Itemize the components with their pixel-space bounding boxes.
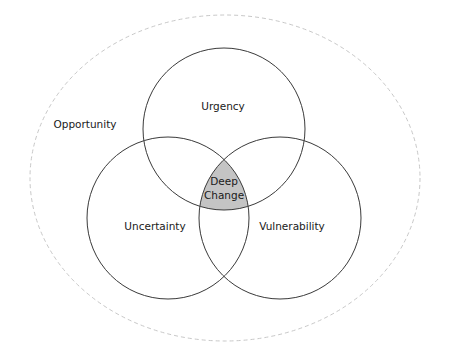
uncertainty-label: Uncertainty: [124, 220, 185, 232]
opportunity-label: Opportunity: [53, 118, 116, 130]
deep-change-label-line2: Change: [204, 189, 244, 201]
deep-change-region: [199, 137, 361, 299]
urgency-label: Urgency: [201, 100, 245, 112]
vulnerability-label: Vulnerability: [259, 220, 325, 232]
deep-change-label-line1: Deep: [210, 175, 238, 187]
venn-diagram: Opportunity Urgency Uncertainty Vulnerab…: [0, 0, 450, 356]
